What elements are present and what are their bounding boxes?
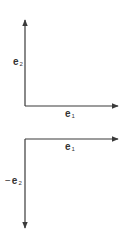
top-e2-base: e	[13, 56, 19, 67]
bottom-neg-e2-subscript: 2	[18, 180, 21, 186]
top-e2-label: e2	[13, 57, 23, 69]
basis-vectors-figure	[0, 0, 124, 229]
bottom-e1-base: e	[65, 141, 71, 152]
bottom-e1-subscript: 1	[72, 146, 75, 152]
top-e1-subscript: 1	[72, 113, 75, 119]
bottom-neg-e2-label: −e2	[5, 176, 22, 188]
bottom-neg-e2-base: e	[12, 175, 18, 186]
top-e1-base: e	[65, 108, 71, 119]
bottom-e1-label: e1	[65, 142, 75, 154]
top-e2-subscript: 2	[20, 61, 23, 67]
bottom-neg-e2-prefix: −	[5, 175, 11, 186]
top-diagram	[25, 20, 118, 106]
top-e1-label: e1	[65, 109, 75, 121]
